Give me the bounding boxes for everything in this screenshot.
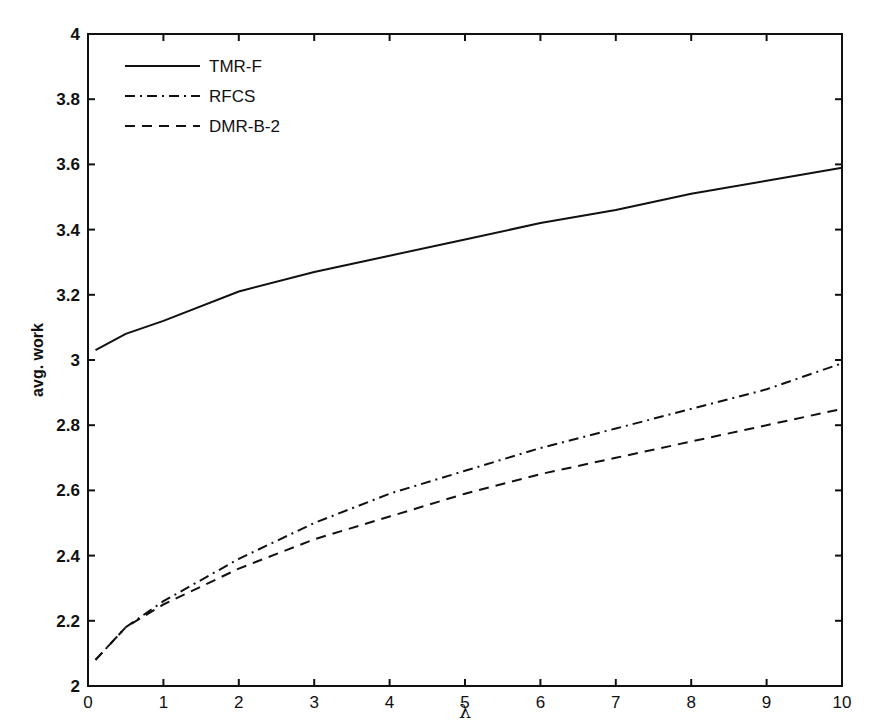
legend-label: RFCS <box>209 87 255 106</box>
x-tick-label: 7 <box>611 693 620 712</box>
y-tick-label: 2.6 <box>56 481 80 500</box>
x-tick-label: 8 <box>686 693 695 712</box>
y-tick-label: 3.8 <box>56 90 80 109</box>
y-axis-ticks: 22.22.42.62.833.23.43.63.84 <box>56 25 842 696</box>
x-axis-ticks: 012345678910 <box>83 34 851 712</box>
x-tick-label: 3 <box>309 693 318 712</box>
x-tick-label: 6 <box>536 693 545 712</box>
y-tick-label: 3.2 <box>56 286 80 305</box>
x-tick-label: 9 <box>762 693 771 712</box>
y-tick-label: 2 <box>71 677 80 696</box>
y-tick-label: 3.6 <box>56 155 80 174</box>
x-axis-label: λ <box>459 700 471 722</box>
y-tick-label: 3.4 <box>56 221 80 240</box>
series-line-tmr-f <box>96 168 843 351</box>
x-tick-label: 2 <box>234 693 243 712</box>
series-line-rfcs <box>96 363 843 660</box>
x-tick-label: 1 <box>159 693 168 712</box>
plot-frame <box>88 34 842 686</box>
legend-label: TMR-F <box>209 57 262 76</box>
line-chart: 22.22.42.62.833.23.43.63.84 012345678910… <box>0 0 877 726</box>
y-tick-label: 3 <box>71 351 80 370</box>
y-tick-label: 2.4 <box>56 547 80 566</box>
x-tick-label: 0 <box>83 693 92 712</box>
y-tick-label: 4 <box>71 25 81 44</box>
series-line-dmr-b-2 <box>96 409 843 660</box>
y-tick-label: 2.2 <box>56 612 80 631</box>
x-tick-label: 10 <box>833 693 852 712</box>
legend-label: DMR-B-2 <box>209 117 280 136</box>
y-axis-label: avg. work <box>29 323 46 397</box>
series-lines <box>96 168 843 660</box>
legend: TMR-FRFCSDMR-B-2 <box>125 57 280 136</box>
plot-border <box>88 34 842 686</box>
y-tick-label: 2.8 <box>56 416 80 435</box>
x-tick-label: 4 <box>385 693 394 712</box>
